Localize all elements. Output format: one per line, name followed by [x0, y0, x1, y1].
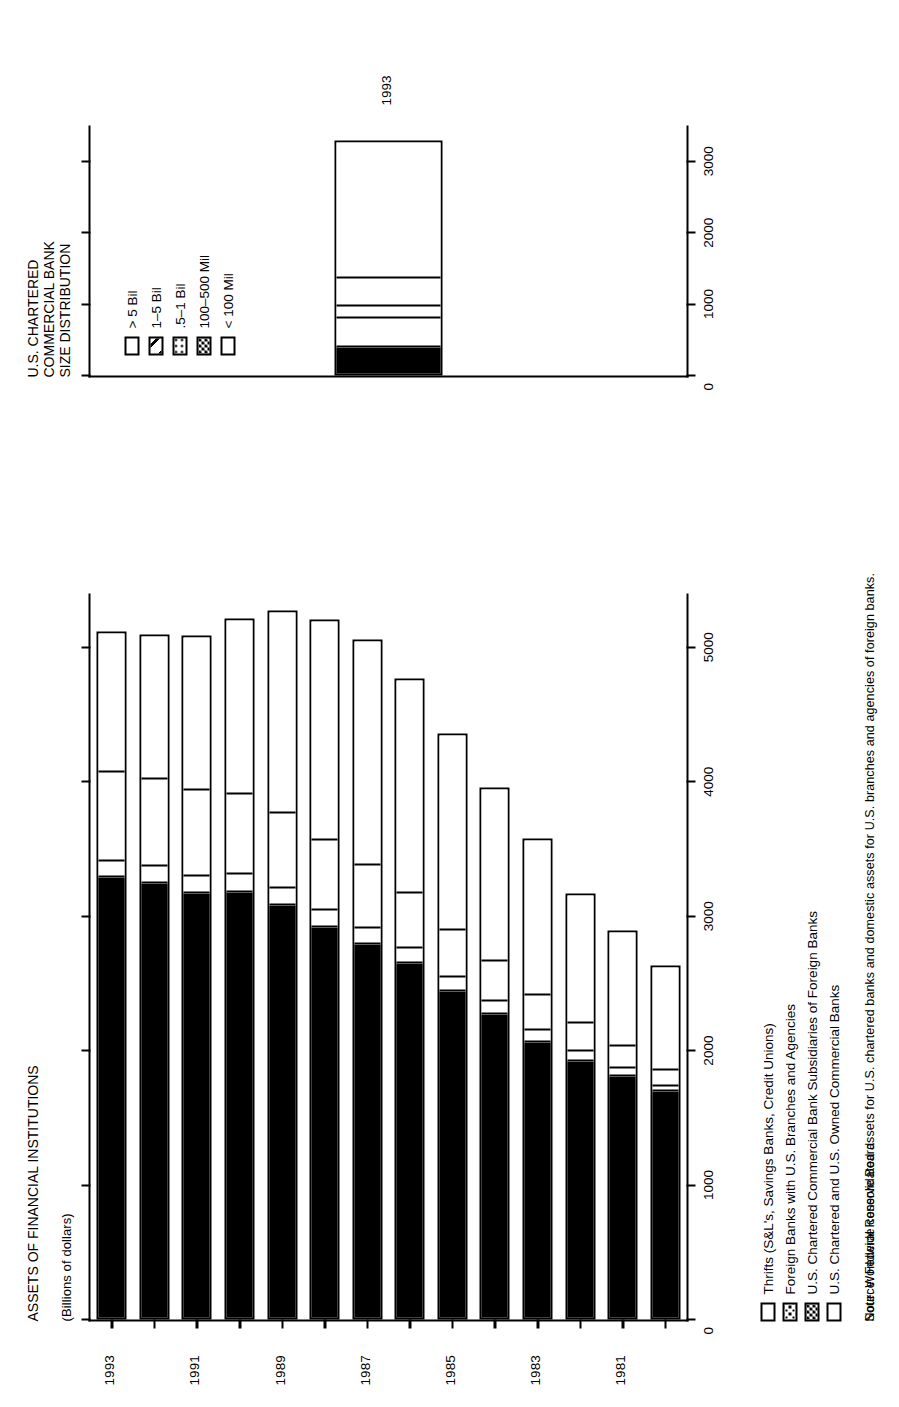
legend-label: U.S. Chartered Commercial Bank Subsidiar…	[804, 911, 819, 1294]
stacked-bar	[139, 634, 169, 1319]
value-tick-label: 0	[700, 1326, 715, 1334]
category-tick	[153, 1319, 156, 1328]
value-tick-label: 5000	[700, 632, 715, 662]
bar-segment	[183, 790, 209, 876]
category-tick	[493, 1319, 496, 1328]
bar-segment	[396, 963, 422, 1317]
category-tick	[621, 1319, 624, 1328]
legend-swatch-open	[124, 336, 139, 355]
title-line-0: ASSETS OF FINANCIAL INSTITUTIONS	[24, 1065, 40, 1321]
value-tick-1000	[81, 303, 90, 305]
value-tick-2000	[686, 231, 695, 233]
legend-item: 100–500 Mil	[196, 254, 211, 355]
value-tick-1000	[81, 1184, 90, 1186]
bar-segment	[481, 961, 507, 1001]
legend-swatch-hatch	[148, 336, 163, 355]
legend-item: Foreign Banks with U.S. Branches and Age…	[782, 911, 797, 1321]
legend-swatch-solid	[826, 1302, 841, 1321]
secondary-year-label: 1993	[378, 75, 393, 105]
bar-segment	[98, 861, 124, 877]
bar-segment	[652, 1091, 678, 1317]
legend-label: 100–500 Mil	[196, 254, 211, 328]
bar-segment	[141, 779, 167, 866]
value-tick-5000	[81, 646, 90, 648]
bar-segment	[226, 620, 252, 794]
value-tick-5000	[686, 646, 695, 648]
bar-segment	[226, 794, 252, 874]
bar-segment	[98, 877, 124, 1317]
bar-segment	[226, 874, 252, 892]
bar-segment	[269, 612, 295, 813]
bar-segment	[336, 347, 440, 373]
legend-label: .5–1 Bil	[172, 283, 187, 328]
bar-segment	[652, 1070, 678, 1086]
bar-segment	[609, 1046, 635, 1069]
bar-segment	[311, 621, 337, 840]
stacked-bar	[181, 635, 211, 1319]
bar-segment	[609, 1076, 635, 1317]
title-line-0: U.S. CHARTERED	[24, 241, 40, 377]
value-tick-label: 1000	[700, 1170, 715, 1200]
category-tick	[451, 1319, 454, 1328]
legend-label: < 100 Mil	[220, 273, 235, 328]
bar-segment	[141, 866, 167, 883]
value-tick-2000	[686, 1049, 695, 1051]
bar-segment	[269, 888, 295, 905]
bar-segment	[269, 813, 295, 888]
category-tick	[579, 1319, 582, 1328]
stacked-bar	[479, 787, 509, 1319]
value-tick-4000	[686, 780, 695, 782]
bar-segment	[354, 944, 380, 1317]
value-tick-label: 2000	[700, 1035, 715, 1065]
category-tick	[195, 1319, 198, 1328]
stacked-bar	[267, 610, 297, 1319]
bar-segment	[336, 318, 440, 348]
category-tick	[408, 1319, 411, 1328]
bar-segment	[396, 948, 422, 963]
main-chart-title: ASSETS OF FINANCIAL INSTITUTIONS	[24, 1065, 40, 1321]
main-chart-panel: ASSETS OF FINANCIAL INSTITUTIONS (Billio…	[88, 461, 728, 1321]
value-tick-label: 0	[700, 382, 715, 390]
stacked-bar	[224, 618, 254, 1319]
bar-segment	[481, 1014, 507, 1317]
bar-segment	[141, 636, 167, 779]
stacked-bar	[522, 838, 552, 1319]
category-tick	[536, 1319, 539, 1328]
year-label-1981: 1981	[612, 1355, 627, 1385]
bar-segment	[439, 977, 465, 992]
legend-swatch-checks	[804, 1302, 819, 1321]
source-text: Source: Federal Reserve Board	[862, 1142, 876, 1321]
title-line-2: SIZE DISTRIBUTION	[56, 241, 72, 377]
legend-swatch-open	[760, 1302, 775, 1321]
bar-segment	[336, 142, 440, 278]
legend-swatch-dots2	[782, 1302, 797, 1321]
value-tick-0	[686, 1318, 695, 1320]
chart-stage: ASSETS OF FINANCIAL INSTITUTIONS (Billio…	[0, 0, 899, 1407]
bar-segment	[98, 633, 124, 772]
bar-segment	[336, 306, 440, 317]
category-tick	[110, 1319, 113, 1328]
category-tick	[664, 1319, 667, 1328]
main-plot-area	[88, 593, 688, 1321]
bar-segment	[354, 865, 380, 928]
value-tick-label: 3000	[700, 901, 715, 931]
legend-swatch-checks	[196, 336, 211, 355]
value-tick-label: 2000	[700, 217, 715, 247]
value-tick-0	[81, 374, 90, 376]
year-label-1987: 1987	[357, 1355, 372, 1385]
legend-item: > 5 Bil	[124, 254, 139, 355]
legend-item: .5–1 Bil	[172, 254, 187, 355]
bar-segment	[336, 278, 440, 306]
bar-segment	[439, 991, 465, 1317]
legend-label: > 5 Bil	[124, 290, 139, 328]
bar-segment	[183, 876, 209, 893]
legend-item: < 100 Mil	[220, 254, 235, 355]
bar-segment	[524, 1042, 550, 1317]
legend-label: U.S. Chartered and U.S. Owned Commercial…	[826, 984, 841, 1294]
secondary-stacked-bar	[334, 140, 442, 375]
bar-segment	[141, 883, 167, 1317]
stacked-bar	[607, 930, 637, 1319]
secondary-chart-title: U.S. CHARTEREDCOMMERCIAL BANKSIZE DISTRI…	[24, 241, 72, 377]
bar-segment	[524, 995, 550, 1030]
legend-swatch-dots	[172, 336, 187, 355]
